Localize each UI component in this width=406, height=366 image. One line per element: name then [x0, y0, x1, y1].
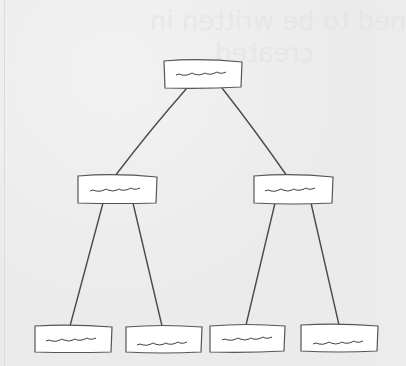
node-leaf-1	[35, 325, 112, 352]
tree-nodes	[35, 60, 378, 353]
node-mid-left	[78, 175, 157, 204]
edge-root-to-mid-left	[115, 88, 187, 176]
tree-edges	[70, 88, 339, 326]
node-root	[164, 60, 242, 89]
edge-mid-right-to-leaf-4	[311, 203, 339, 325]
edge-mid-left-to-leaf-2	[133, 203, 162, 326]
node-leaf-2	[126, 326, 202, 354]
edge-root-to-mid-right	[222, 88, 287, 176]
node-leaf-3	[210, 325, 285, 353]
edge-mid-left-to-leaf-1	[70, 203, 103, 326]
edge-mid-right-to-leaf-3	[246, 203, 275, 325]
node-mid-right	[254, 175, 333, 204]
node-leaf-4	[301, 324, 378, 352]
